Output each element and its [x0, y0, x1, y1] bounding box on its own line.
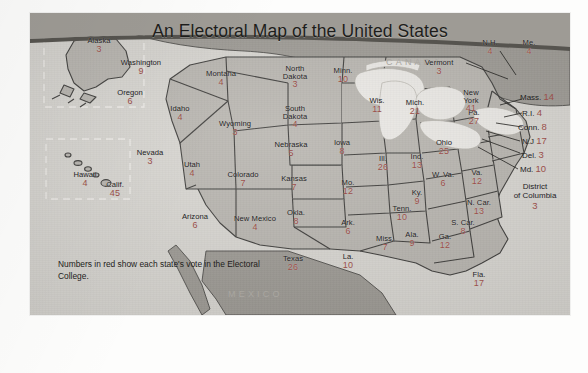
callout-maryland: Md. 10 [520, 163, 546, 174]
state-label-michigan: Mich. 21 [396, 99, 434, 116]
state-label-southdakota: South Dakota 4 [270, 105, 320, 130]
state-label-florida: Fla. 17 [464, 271, 494, 288]
state-label-northcarolina: N. Car. 13 [458, 199, 500, 216]
state-label-california: Calif. 45 [92, 181, 138, 198]
state-label-missouri: Mo. 12 [330, 179, 366, 196]
state-label-alaska: Alaska 3 [70, 37, 128, 54]
state-label-washington: Washington 9 [110, 59, 172, 76]
state-label-arkansas: Ark. 6 [330, 219, 366, 236]
state-label-westvirginia: W. Va. 6 [424, 171, 462, 188]
electoral-map-plate: An Electoral Map of the United States CA… [30, 13, 570, 315]
state-label-maine: Me. 4 [516, 39, 542, 56]
state-label-vermont: Vermont 3 [416, 59, 462, 76]
mexico-label: MEXICO [228, 289, 283, 299]
state-label-virginia: Va. 12 [462, 169, 492, 186]
state-label-wyoming: Wyoming 3 [208, 120, 262, 137]
map-caption: Numbers in red show each state's vote in… [58, 259, 268, 283]
state-label-nebraska: Nebraska 5 [262, 141, 320, 158]
state-label-colorado: Colorado 7 [216, 171, 270, 188]
state-label-newhampshire: N.H. 4 [476, 39, 504, 56]
state-label-illinois: Ill. 26 [368, 155, 398, 172]
state-label-tennessee: Tenn. 10 [382, 205, 422, 222]
state-label-newyork: New York 41 [454, 89, 488, 114]
state-label-idaho: Idaho 4 [160, 105, 200, 122]
state-label-alabama: Ala. 9 [396, 231, 428, 248]
callout-delaware: Del. 3 [522, 149, 544, 160]
state-label-minnesota: Minn. 10 [322, 67, 364, 84]
state-label-kansas: Kansas 7 [268, 175, 320, 192]
callout-newjersey: N.J 17 [522, 135, 547, 146]
state-label-utah: Utah 4 [172, 161, 212, 178]
callout-rhodeisland: R.I. 4 [522, 107, 542, 118]
state-label-ohio: Ohio 25 [428, 139, 460, 156]
state-label-southcarolina: S. Car. 8 [442, 219, 484, 236]
state-label-oregon: Oregon 6 [104, 89, 156, 106]
state-label-nevada: Nevada 3 [126, 149, 174, 166]
callout-massachusetts: Mass. 14 [520, 91, 554, 102]
state-label-oklahoma: Okla. 8 [274, 209, 318, 226]
callout-connecticut: Conn. 8 [518, 121, 547, 132]
state-label-arizona: Arizona 6 [170, 213, 220, 230]
state-label-texas: Texas 26 [270, 255, 316, 272]
state-label-iowa: Iowa 8 [322, 139, 362, 156]
state-label-louisiana: La. 10 [332, 253, 364, 270]
callout-district-of-columbia: District of Columbia 3 [500, 183, 570, 212]
state-label-northdakota: North Dakota 3 [270, 65, 320, 90]
state-label-wisconsin: Wis. 11 [360, 97, 394, 114]
scanned-page: An Electoral Map of the United States CA… [0, 0, 588, 373]
state-label-montana: Montana 4 [194, 70, 248, 87]
